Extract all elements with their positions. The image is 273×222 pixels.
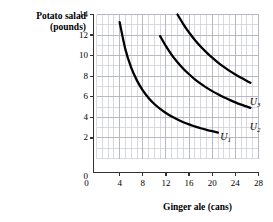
curve-label-U2: U2 bbox=[250, 121, 261, 132]
x-axis-title: Ginger ale (cans) bbox=[163, 202, 232, 213]
y-axis-tick-label: 10 bbox=[74, 50, 88, 60]
y-axis-tick-label: 6 bbox=[74, 91, 88, 101]
indifference-curve-U1 bbox=[120, 22, 218, 132]
x-axis-tick-label: 24 bbox=[228, 178, 242, 188]
x-axis-tick-label: 16 bbox=[182, 178, 196, 188]
grid-lines bbox=[97, 15, 259, 159]
y-axis-tick-label: 14 bbox=[74, 9, 88, 19]
x-axis-tick-label: 28 bbox=[252, 178, 266, 188]
axis-lines bbox=[90, 15, 259, 177]
y-axis-tick-label: 12 bbox=[74, 30, 88, 40]
curve-label-text: U bbox=[250, 121, 257, 132]
y-axis-tick-label: 8 bbox=[74, 71, 88, 81]
indifference-curve-chart: Potato salad (pounds) Ginger ale (cans) … bbox=[0, 0, 273, 222]
x-axis-tick-label: 20 bbox=[205, 178, 219, 188]
curve-label-subscript: 2 bbox=[257, 126, 261, 134]
curve-paths bbox=[120, 15, 251, 133]
curve-label-U3: U3 bbox=[250, 96, 261, 107]
x-axis-tick-label: 0 bbox=[80, 178, 94, 188]
chart-plot-area bbox=[0, 0, 273, 222]
y-axis-tick-label: 4 bbox=[74, 112, 88, 122]
curve-label-text: U bbox=[250, 96, 257, 107]
x-axis-tick-label: 4 bbox=[113, 178, 127, 188]
curve-label-U1: U1 bbox=[220, 131, 231, 142]
x-axis-tick-label: 12 bbox=[159, 178, 173, 188]
y-axis-tick-label: 2 bbox=[74, 132, 88, 142]
curve-label-subscript: 3 bbox=[257, 101, 261, 109]
x-axis-tick-label: 8 bbox=[136, 178, 150, 188]
curve-label-subscript: 1 bbox=[227, 136, 231, 144]
